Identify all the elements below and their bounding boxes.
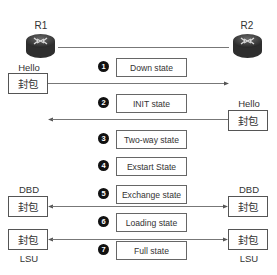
router-icon xyxy=(232,33,263,59)
dbd-packet-right: 封包 xyxy=(228,196,268,217)
router-r1-label: R1 xyxy=(27,20,55,31)
hello-left-label: Hello xyxy=(12,62,46,73)
lsu-packet-left: 封包 xyxy=(8,229,48,250)
step-6-bullet: 6 xyxy=(98,216,109,227)
state-exchange: Exchange state xyxy=(116,185,187,204)
hello-packet-right: 封包 xyxy=(228,110,268,131)
arrow-left-hello xyxy=(47,116,229,123)
router-r2-label: R2 xyxy=(233,20,261,31)
arrow-right-hello xyxy=(48,80,230,87)
state-full: Full state xyxy=(116,241,187,260)
state-two-way: Two-way state xyxy=(116,130,187,149)
step-2-bullet: 2 xyxy=(98,97,109,108)
dbd-right-label: DBD xyxy=(232,184,266,195)
step-3-bullet: 3 xyxy=(98,133,109,144)
lsu-right-label: LSU xyxy=(232,253,266,264)
dbd-packet-left: 封包 xyxy=(8,196,48,217)
step-1-bullet: 1 xyxy=(98,61,109,72)
state-loading: Loading state xyxy=(116,213,187,232)
hello-right-label: Hello xyxy=(232,98,266,109)
step-5-bullet: 5 xyxy=(98,188,109,199)
state-init: INIT state xyxy=(116,94,187,113)
hello-packet-left: 封包 xyxy=(8,73,48,94)
arrow-both-dbd xyxy=(47,203,229,210)
router-icon xyxy=(25,33,56,59)
lsu-packet-right: 封包 xyxy=(228,229,268,250)
lsu-left-label: LSU xyxy=(12,253,46,264)
dbd-left-label: DBD xyxy=(12,184,46,195)
step-4-bullet: 4 xyxy=(98,160,109,171)
step-7-bullet: 7 xyxy=(98,244,109,255)
state-exstart: Exstart State xyxy=(116,157,187,176)
router-link-line xyxy=(58,47,229,48)
state-down: Down state xyxy=(116,58,187,77)
